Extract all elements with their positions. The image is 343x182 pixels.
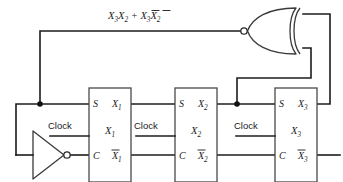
junction-dot-left-feedback xyxy=(37,101,43,107)
ff2-qbar-sub: 2 xyxy=(204,156,208,164)
circuit-svg: X3X2 + X3X2 xyxy=(0,0,343,182)
inverter-output-bubble xyxy=(64,152,70,158)
flipflop-3[interactable]: S X3 X3 C X3 Clock xyxy=(234,88,317,182)
ff1-clock-label: Clock xyxy=(48,120,72,131)
circuit-diagram: X3X2 + X3X2 xyxy=(0,0,343,182)
ff3-clock-label: Clock xyxy=(234,120,258,131)
inverter-gate xyxy=(16,131,70,179)
ff1-q-sub: 1 xyxy=(118,104,122,112)
ff2-center-sub: 2 xyxy=(197,131,201,139)
svg-text:X3X2 + X3X2: X3X2 + X3X2 xyxy=(107,10,161,24)
xnor-gate xyxy=(241,8,300,54)
svg-text:S: S xyxy=(179,98,184,109)
ff3-clear-label: C xyxy=(279,150,286,161)
xnor-gate-body xyxy=(248,8,297,54)
flipflop-2[interactable]: S X2 X2 C X2 Clock xyxy=(134,88,217,182)
ff3-center-sub: 3 xyxy=(296,131,301,139)
ff2-q-sub: 2 xyxy=(204,104,208,112)
feedback-expression-label: X3X2 + X3X2 xyxy=(107,10,171,24)
ff2-set-label: S xyxy=(179,98,184,109)
svg-text:C: C xyxy=(279,150,286,161)
ff2-clock-label: Clock xyxy=(134,120,158,131)
svg-text:C: C xyxy=(93,150,100,161)
inverter-triangle xyxy=(33,131,64,179)
ff1-center-sub: 1 xyxy=(111,131,115,139)
svg-text:S: S xyxy=(279,98,284,109)
ff2-clear-label: C xyxy=(179,150,186,161)
ff3-set-label: S xyxy=(279,98,284,109)
expr-term2-b-sub: 2 xyxy=(157,16,161,24)
ff1-qbar-sub: 1 xyxy=(118,156,122,164)
ff3-qbar-sub: 3 xyxy=(303,156,308,164)
ff3-q-sub: 3 xyxy=(303,104,308,112)
expr-plus: + xyxy=(128,10,140,21)
ff1-clear-label: C xyxy=(93,150,100,161)
svg-text:S: S xyxy=(93,98,98,109)
svg-text:C: C xyxy=(179,150,186,161)
ff1-set-label: S xyxy=(93,98,98,109)
flipflop-1[interactable]: S X1 X1 C X1 Clock xyxy=(48,88,131,182)
xnor-output-bubble xyxy=(241,28,247,34)
junction-dot-x2-tap xyxy=(234,101,240,107)
xnor-gate-inner-arc xyxy=(294,8,300,54)
